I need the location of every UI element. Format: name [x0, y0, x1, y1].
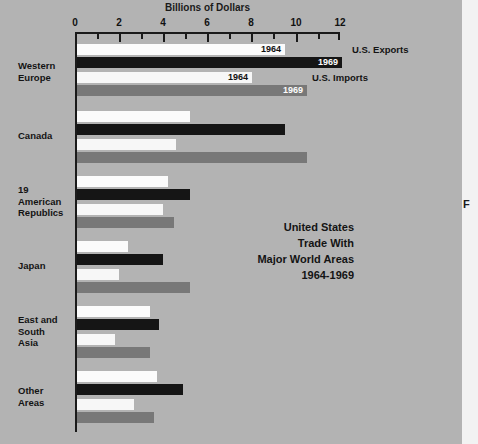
chart-title-line-2: Trade With [257, 235, 354, 251]
bar-value-label: 1964 [228, 71, 248, 83]
bar-canada-imports-1964 [77, 139, 176, 150]
bar-19-american-republics-imports-1969 [77, 217, 174, 228]
x-minor-tick-5 [185, 34, 187, 39]
bar-japan-exports-1969 [77, 254, 163, 265]
bar-other-areas-imports-1964 [77, 399, 134, 410]
x-tick-label-10: 10 [290, 17, 301, 28]
chart-title-line-3: Major World Areas [257, 251, 354, 267]
x-minor-tick-7 [229, 34, 231, 39]
chart-title: United States Trade With Major World Are… [257, 219, 354, 283]
category-label-east-and-south-asia: East and South Asia [18, 314, 58, 349]
x-tick-label-8: 8 [248, 17, 254, 28]
bar-canada-exports-1969 [77, 124, 285, 135]
bar-east-and-south-asia-imports-1964 [77, 334, 115, 345]
x-axis-title: Billions of Dollars [75, 2, 340, 13]
x-tick-label-0: 0 [72, 17, 78, 28]
bar-western-europe-exports-1964: 1964 [77, 44, 285, 55]
bar-canada-exports-1964 [77, 111, 190, 122]
chart-title-line-4: 1964-1969 [257, 267, 354, 283]
bar-group-japan: Japan [0, 235, 478, 300]
bar-19-american-republics-exports-1969 [77, 189, 190, 200]
x-minor-tick-3 [141, 34, 143, 39]
bar-western-europe-imports-1964: 1964 [77, 72, 252, 83]
bar-east-and-south-asia-exports-1964 [77, 306, 150, 317]
x-minor-tick-1 [97, 34, 99, 39]
category-label-western-europe: Western Europe [18, 60, 55, 83]
x-tick-label-6: 6 [204, 17, 210, 28]
bar-other-areas-exports-1969 [77, 384, 183, 395]
bar-japan-imports-1969 [77, 282, 190, 293]
bar-19-american-republics-exports-1964 [77, 176, 168, 187]
bar-other-areas-exports-1964 [77, 371, 157, 382]
bar-western-europe-exports-1969: 1969 [77, 57, 342, 68]
x-axis-rule [75, 32, 340, 40]
x-minor-tick-9 [273, 34, 275, 39]
bar-value-label: 1969 [283, 84, 303, 96]
bar-value-label: 1964 [261, 43, 281, 55]
category-label-other-areas: Other Areas [18, 385, 44, 408]
chart-title-line-1: United States [257, 219, 354, 235]
category-label-canada: Canada [18, 130, 52, 142]
x-axis-tick-labels: 0 2 4 6 8 10 12 [0, 17, 478, 31]
chart-plot-area: Western Europe 1964 1969 1964 1969 U.S. … [0, 40, 478, 430]
bar-japan-exports-1964 [77, 241, 128, 252]
bar-group-western-europe: Western Europe 1964 1969 1964 1969 U.S. … [0, 40, 478, 105]
bar-group-east-and-south-asia: East and South Asia [0, 300, 478, 365]
bar-canada-imports-1969 [77, 152, 307, 163]
legend-label-imports: U.S. Imports [312, 72, 368, 83]
bar-western-europe-imports-1969: 1969 [77, 85, 307, 96]
bar-value-label: 1969 [318, 56, 338, 68]
category-label-japan: Japan [18, 260, 45, 272]
x-tick-label-2: 2 [116, 17, 122, 28]
bar-group-19-american-republics: 19 American Republics [0, 170, 478, 235]
bar-group-canada: Canada [0, 105, 478, 170]
bar-east-and-south-asia-imports-1969 [77, 347, 150, 358]
bar-other-areas-imports-1969 [77, 412, 154, 423]
category-label-19-american-republics: 19 American Republics [18, 184, 63, 219]
bar-group-other-areas: Other Areas [0, 365, 478, 430]
bar-east-and-south-asia-exports-1969 [77, 319, 159, 330]
legend-label-exports: U.S. Exports [352, 44, 409, 55]
bar-19-american-republics-imports-1964 [77, 204, 163, 215]
x-minor-tick-11 [318, 34, 320, 39]
x-tick-label-12: 12 [334, 17, 345, 28]
bar-japan-imports-1964 [77, 269, 119, 280]
x-tick-label-4: 4 [160, 17, 166, 28]
